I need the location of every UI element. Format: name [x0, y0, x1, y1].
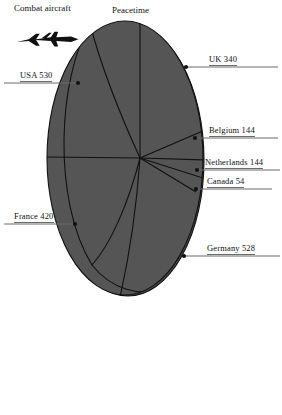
label-netherlands: Netherlands 144: [205, 157, 263, 169]
dot-uk: [184, 65, 188, 69]
page-title: Peacetime: [112, 5, 149, 16]
chart-canvas: Combat aircraft Peacetime UK 340 USA 530…: [0, 0, 282, 415]
label-belgium: Belgium 144: [209, 125, 255, 137]
fighter-jet-icon: [17, 32, 79, 47]
label-canada: Canada 54: [207, 176, 244, 188]
legend-category-label: Combat aircraft: [14, 3, 88, 14]
pie-chart-graphic: [0, 0, 282, 415]
dot-netherlands: [195, 168, 199, 172]
label-france: France 420: [14, 211, 54, 223]
label-germany: Germany 528: [207, 243, 255, 255]
dot-usa: [76, 81, 80, 85]
dot-belgium: [193, 136, 197, 140]
dot-germany: [182, 254, 186, 258]
label-usa: USA 530: [20, 70, 52, 82]
label-uk: UK 340: [209, 54, 237, 66]
dot-canada: [194, 187, 198, 191]
dot-france: [73, 222, 77, 226]
